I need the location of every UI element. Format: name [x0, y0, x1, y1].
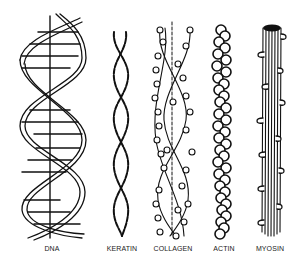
collagen-triple-helix-figure — [152, 22, 195, 239]
label-dna: DNA — [44, 245, 59, 252]
label-collagen: COLLAGEN — [154, 245, 193, 252]
myosin-filament-figure — [257, 25, 286, 237]
molecular-structures-diagram: DNA KERATIN COLLAGEN ACTIN MYOSIN — [0, 0, 300, 268]
keratin-coil-figure — [114, 32, 128, 236]
label-actin: ACTIN — [213, 245, 235, 252]
label-myosin: MYOSIN — [256, 245, 284, 252]
actin-filament-figure — [212, 25, 231, 239]
dna-helix-figure — [20, 14, 86, 240]
label-keratin: KERATIN — [107, 245, 138, 252]
